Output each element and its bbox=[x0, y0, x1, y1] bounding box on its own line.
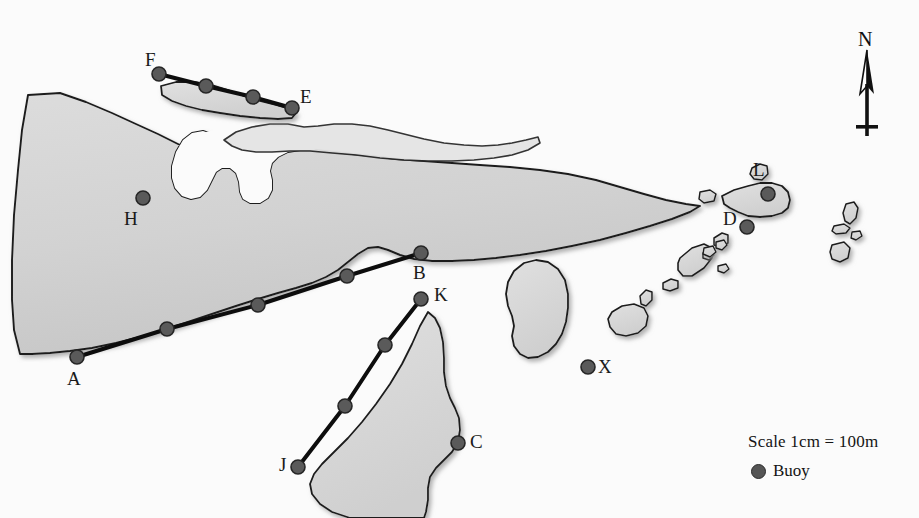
buoy-marker-a2[interactable] bbox=[160, 322, 174, 336]
map-legend: Scale 1cm = 100m Buoy bbox=[748, 432, 878, 481]
buoy-marker-a4[interactable] bbox=[340, 269, 354, 283]
north-letter: N bbox=[858, 28, 872, 51]
nautical-map: FEHABKJCXDL N Scale 1cm = 100m Buoy bbox=[0, 0, 919, 518]
legend-buoy-entry: Buoy bbox=[751, 461, 878, 481]
buoy-marker-d[interactable] bbox=[740, 220, 754, 234]
buoy-label-j: J bbox=[279, 455, 286, 474]
buoy-label-d: D bbox=[723, 209, 737, 228]
buoy-marker-k3[interactable] bbox=[338, 399, 352, 413]
buoy-label-f: F bbox=[145, 50, 156, 69]
buoy-marker-b[interactable] bbox=[414, 246, 428, 260]
buoy-marker-a[interactable] bbox=[70, 350, 84, 364]
buoy-marker-l[interactable] bbox=[761, 187, 775, 201]
buoy-marker-c[interactable] bbox=[451, 436, 465, 450]
buoy-label-b: B bbox=[413, 263, 426, 282]
buoy-marker-k[interactable] bbox=[414, 292, 428, 306]
buoy-label-h: H bbox=[124, 209, 138, 228]
buoy-marker-a3[interactable] bbox=[251, 298, 265, 312]
buoy-label-k: K bbox=[434, 285, 448, 304]
north-arrow-icon: N bbox=[845, 28, 889, 158]
buoy-label-x: X bbox=[598, 357, 612, 376]
buoy-label-a: A bbox=[67, 369, 81, 388]
buoy-marker-k2[interactable] bbox=[378, 338, 392, 352]
buoy-label-l: L bbox=[753, 160, 765, 179]
buoy-marker-f2[interactable] bbox=[199, 79, 213, 93]
buoy-marker-j[interactable] bbox=[291, 460, 305, 474]
buoy-marker-x[interactable] bbox=[581, 360, 595, 374]
buoy-label-c: C bbox=[470, 432, 483, 451]
oval-island bbox=[506, 260, 568, 358]
south-central-block bbox=[466, 262, 506, 302]
buoy-dot-icon bbox=[751, 464, 766, 479]
legend-buoy-label: Buoy bbox=[773, 461, 810, 481]
buoy-marker-e[interactable] bbox=[285, 101, 299, 115]
buoy-label-e: E bbox=[300, 87, 312, 106]
legend-scale-text: Scale 1cm = 100m bbox=[748, 432, 878, 452]
buoy-marker-f3[interactable] bbox=[246, 90, 260, 104]
northern-thin-island bbox=[161, 82, 296, 119]
buoy-marker-h[interactable] bbox=[136, 191, 150, 205]
